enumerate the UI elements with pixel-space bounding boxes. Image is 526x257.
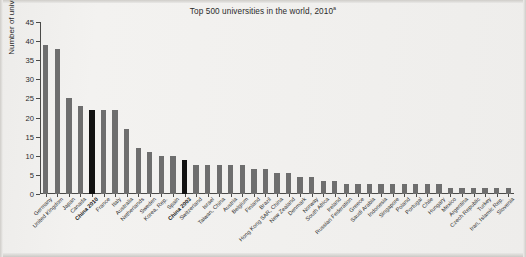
y-tick-mark (36, 22, 40, 23)
bar (332, 181, 337, 194)
y-tick-mark (36, 41, 40, 42)
bar (159, 156, 164, 194)
bar (124, 129, 129, 194)
bar (355, 184, 360, 194)
y-tick-mark (36, 156, 40, 157)
y-tick-label: 30 (26, 75, 34, 84)
x-axis-labels: GermanyUnited KingdomJapanCanadaChina 20… (40, 196, 514, 256)
bar (78, 106, 83, 194)
bar (136, 148, 141, 194)
y-tick-label: 20 (26, 113, 34, 122)
y-tick-mark (36, 118, 40, 119)
bar (205, 165, 210, 194)
bar (344, 184, 349, 194)
y-tick-label: 45 (26, 18, 34, 27)
bar (43, 45, 48, 194)
bar (182, 160, 187, 194)
bar (321, 181, 326, 194)
y-tick-mark (36, 79, 40, 80)
chart-title-superscript: a (333, 5, 336, 11)
y-tick-mark (36, 194, 40, 195)
y-tick-label: 40 (26, 37, 34, 46)
y-tick-label: 25 (26, 94, 34, 103)
y-tick-mark (36, 137, 40, 138)
bar (390, 184, 395, 194)
y-tick-label: 5 (30, 170, 34, 179)
chart-title: Top 500 universities in the world, 2010a (0, 5, 526, 16)
bar (251, 169, 256, 194)
y-tick-mark (36, 98, 40, 99)
bar (402, 184, 407, 194)
bar (147, 152, 152, 194)
y-tick-label: 35 (26, 56, 34, 65)
y-axis-label: Number of universities (7, 0, 16, 70)
bar (89, 110, 94, 194)
bar (378, 184, 383, 194)
bar (286, 173, 291, 194)
y-tick-label: 15 (26, 132, 34, 141)
y-axis-line (40, 22, 41, 194)
bar (367, 184, 372, 194)
scan-edge-left (0, 0, 3, 257)
bar (170, 156, 175, 194)
y-tick-label: 10 (26, 151, 34, 160)
bar (55, 49, 60, 194)
bar (66, 98, 71, 194)
bar (193, 165, 198, 194)
bar (297, 177, 302, 194)
plot-area: 051015202530354045 (40, 22, 514, 194)
chart-figure: Top 500 universities in the world, 2010a… (0, 0, 526, 257)
bar (217, 165, 222, 194)
bar (436, 184, 441, 194)
chart-title-text: Top 500 universities in the world, 2010 (190, 7, 333, 16)
y-tick-mark (36, 60, 40, 61)
bar (228, 165, 233, 194)
bar (101, 110, 106, 194)
y-tick-mark (36, 175, 40, 176)
bar (112, 110, 117, 194)
bar (425, 184, 430, 194)
bar (240, 165, 245, 194)
bar (413, 184, 418, 194)
bar (309, 177, 314, 194)
bar (263, 169, 268, 194)
y-tick-label: 0 (30, 190, 34, 199)
scan-edge-top (0, 0, 526, 3)
bar (274, 173, 279, 194)
